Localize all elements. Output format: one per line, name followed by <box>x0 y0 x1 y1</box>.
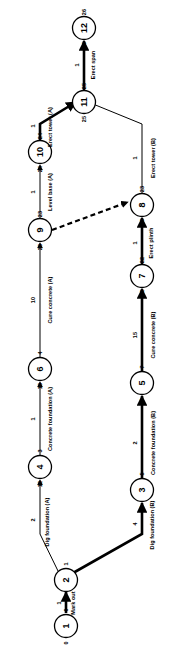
node-1-late: 0 <box>63 641 69 644</box>
duration-cure-concrete-b: 15 <box>132 332 138 338</box>
node-10-late: 24 <box>37 165 43 172</box>
node-12[interactable]: 12 26 26 <box>73 9 96 48</box>
node-6-late: 13 <box>37 383 43 389</box>
node-1-label: 1 <box>61 623 71 628</box>
node-7-late: 22 <box>139 290 145 296</box>
duration-mark-out: 1 <box>56 601 62 604</box>
label-erect-tower-b: Erect tower (B) <box>150 138 156 178</box>
label-erect-tower-a: Erect tower (A) <box>47 107 53 147</box>
node-8[interactable]: 8 23 23 <box>131 186 154 225</box>
node-11-label: 11 <box>79 97 89 107</box>
duration-concrete-foundation-a: 1 <box>30 417 36 420</box>
edge-dig-foundation-b <box>73 503 142 573</box>
duration-dig-foundation-b: 4 <box>132 522 138 526</box>
node-8-label: 8 <box>137 202 147 207</box>
node-9-early: 23 <box>37 211 43 217</box>
node-10-early: 24 <box>37 132 43 139</box>
node-5-late: 7 <box>139 398 145 401</box>
label-level-base-a: Level base (A) <box>47 173 53 211</box>
node-4-early: 3 <box>37 449 43 452</box>
duration-erect-span: 1 <box>74 63 80 66</box>
label-concrete-foundation-b: Concrete foundation (B) <box>150 411 156 475</box>
network-diagram-canvas: 12 26 26 11 25 25 10 24 24 9 23 23 6 <box>0 0 187 652</box>
duration-concrete-foundation-b: 2 <box>132 441 138 444</box>
node-7-early: 22 <box>139 257 145 263</box>
node-6-label: 6 <box>35 366 45 371</box>
node-5-early: 7 <box>139 365 145 368</box>
node-4-label: 4 <box>35 464 45 469</box>
node-8-late: 23 <box>139 219 145 225</box>
label-cure-concrete-b: Cure concrete (B) <box>150 311 156 358</box>
node-10-label: 10 <box>35 147 45 157</box>
node-1-early: 0 <box>63 608 69 611</box>
duration-erect-plinth: 1 <box>132 241 138 244</box>
edge-erect-tower-b <box>93 104 142 193</box>
node-9-label: 9 <box>35 227 45 232</box>
node-11[interactable]: 11 25 25 <box>73 83 96 122</box>
duration-dig-foundation-a: 2 <box>30 518 36 521</box>
node-12-late: 26 <box>81 42 87 48</box>
node-7[interactable]: 7 22 22 <box>131 257 154 296</box>
edge-dummy-9-8 <box>52 202 128 230</box>
label-erect-span: Erect span <box>90 50 96 79</box>
node-12-early: 26 <box>81 9 87 15</box>
node-3-early: 5 <box>139 472 145 475</box>
label-dig-foundation-b: Dig foundation (B) <box>149 500 155 549</box>
node-11-early: 25 <box>81 83 87 89</box>
node-4[interactable]: 4 3 12 <box>29 449 52 487</box>
node-8-early: 23 <box>139 186 145 192</box>
node-7-label: 7 <box>137 273 147 278</box>
node-2-late: 1 <box>63 595 69 598</box>
node-9[interactable]: 9 23 23 <box>29 211 52 250</box>
node-3-label: 3 <box>137 487 147 492</box>
node-4-late: 12 <box>37 481 43 487</box>
node-3-late: 5 <box>139 505 145 508</box>
node-9-late: 23 <box>37 244 43 250</box>
duration-level-base-a: 1 <box>30 190 36 193</box>
network-diagram: 12 26 26 11 25 25 10 24 24 9 23 23 6 <box>0 0 187 652</box>
label-dig-foundation-a: Dig foundation (A) <box>44 497 50 546</box>
label-cure-concrete-a: Cure concrete (A) <box>47 276 53 323</box>
node-2-label: 2 <box>61 577 71 582</box>
label-erect-plinth: Erect plinth <box>148 227 154 258</box>
node-12-label: 12 <box>79 23 89 33</box>
node-11-late: 25 <box>81 116 87 122</box>
label-mark-out: Mark out <box>70 591 76 614</box>
node-5-label: 5 <box>137 380 147 385</box>
duration-cure-concrete-a: 10 <box>30 297 36 303</box>
duration-erect-tower-a: 1 <box>30 124 36 127</box>
label-concrete-foundation-a: Concrete foundation (A) <box>47 387 53 451</box>
node-2-early: 1 <box>63 562 69 565</box>
edge-erect-tower-a <box>40 102 76 140</box>
duration-erect-tower-b: 1 <box>132 156 138 159</box>
